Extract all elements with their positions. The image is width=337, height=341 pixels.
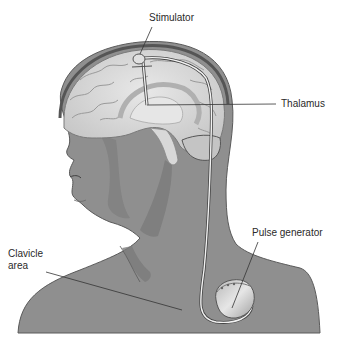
label-clavicle-area: Clavicle area — [8, 248, 58, 272]
label-thalamus: Thalamus — [281, 98, 325, 110]
label-pulse-generator: Pulse generator — [252, 227, 323, 239]
label-stimulator: Stimulator — [149, 12, 194, 24]
stimulator-device — [133, 54, 145, 64]
pulse-generator-device — [216, 280, 255, 318]
dbs-illustration — [0, 0, 337, 341]
